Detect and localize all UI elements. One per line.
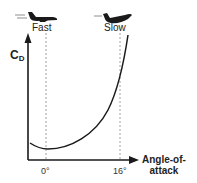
x-axis-arrow-icon [129, 156, 139, 164]
airplane-level-icon [15, 12, 57, 22]
y-axis [25, 33, 32, 160]
tick-label-0deg: 0° [41, 166, 50, 176]
tick-label-16deg: 16° [113, 166, 127, 176]
marker-label-fast: Fast [32, 23, 51, 33]
y-axis-label-subscript: D [19, 54, 25, 63]
marker-label-slow: Slow [104, 23, 126, 33]
y-axis-label: CD [10, 50, 24, 64]
x-axis-label-line2: attack [142, 165, 186, 176]
y-axis-arrow-icon [25, 33, 32, 43]
x-axis-label-line1: Angle-of- [142, 154, 186, 165]
x-axis [28, 156, 139, 164]
x-axis-label: Angle-of- attack [142, 154, 186, 176]
y-axis-label-main: C [10, 48, 19, 62]
drag-curve [30, 35, 128, 149]
